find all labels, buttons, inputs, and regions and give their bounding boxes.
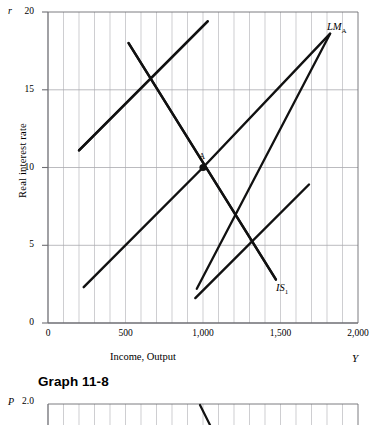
bottom-partial-chart: P 2.0 (0, 396, 378, 425)
x-axis-symbol: Y (352, 352, 358, 364)
bottom-vertical-gridlines (64, 404, 343, 425)
segment-lower-right-upward (195, 185, 309, 299)
y-tick-20: 20 (8, 6, 34, 16)
curve-label-lm-a-text: LM (327, 21, 342, 32)
segment-lm-left (79, 21, 208, 150)
curve-label-is-1-text: IS (276, 282, 285, 293)
is-lm-chart: r 20 15 10 5 0 Real interest rate 0 500 … (0, 0, 378, 345)
y-tick-0: 0 (8, 317, 34, 327)
axis-ticks (42, 12, 48, 323)
y-axis-title: Real interest rate (17, 96, 28, 226)
x-tick-500: 500 (104, 328, 148, 338)
segment-is-1 (129, 43, 276, 279)
curve-second-upward (84, 21, 208, 287)
x-tick-2000: 2,000 (336, 328, 378, 338)
point-A-marker (199, 164, 206, 171)
chart-canvas (0, 0, 378, 345)
graph-figure: r 20 15 10 5 0 Real interest rate 0 500 … (0, 0, 378, 425)
x-tick-1500: 1,500 (259, 328, 303, 338)
point-A-label: A (199, 151, 205, 161)
segment-lm-a (203, 34, 330, 168)
figure-caption: Graph 11-8 (38, 374, 109, 389)
curve-label-lm-a: LMA (327, 21, 347, 35)
y-tick-15: 15 (8, 84, 34, 94)
curve-lm-a (197, 34, 330, 289)
x-axis-title: Income, Output (110, 351, 176, 362)
curve-label-lm-a-sub: A (342, 27, 347, 35)
y-tick-5: 5 (8, 239, 34, 249)
bottom-curve-segment (200, 405, 210, 425)
x-tick-1000: 1,000 (181, 328, 225, 338)
curve-label-is-1-sub: 1 (285, 288, 289, 296)
x-tick-0: 0 (26, 328, 70, 338)
bottom-chart-canvas (0, 396, 378, 425)
curve-label-is-1: IS1 (276, 282, 288, 296)
segment-lm-lower-left (84, 168, 203, 288)
